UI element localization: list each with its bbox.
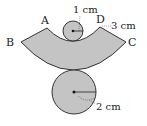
point-label-c: C [128,36,136,49]
point-label-b: B [6,36,14,49]
large-radius-label: 2 cm [96,101,121,112]
point-label-a: A [40,14,50,27]
frustum-net-diagram: A B C D 1 cm 3 cm 2 cm [0,0,147,126]
slant-height-label: 3 cm [111,20,136,31]
small-radius-label: 1 cm [73,4,98,15]
